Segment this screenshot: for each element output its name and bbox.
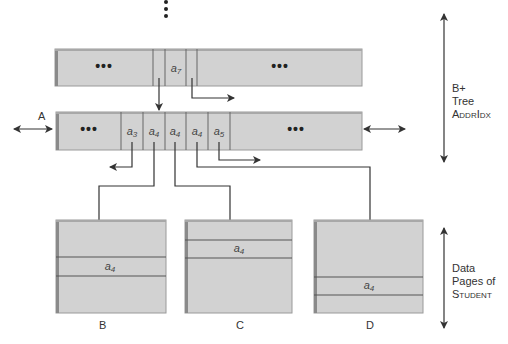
btree-label-line3: AddrIdx — [452, 108, 491, 121]
data-page-C — [185, 220, 292, 313]
leaf-index-node — [56, 112, 362, 150]
page-label-C: C — [236, 319, 244, 332]
pages-label-line1: Data — [452, 262, 495, 275]
pages-label-line3: Student — [452, 288, 495, 301]
data-page-D — [314, 220, 423, 313]
record-sub: 4 — [111, 265, 115, 274]
key-sub: 5 — [220, 130, 224, 139]
page-B-record-a4: a4 — [105, 260, 116, 274]
leaf-key-a3: a3 — [127, 125, 138, 139]
leaf-key-a4-3: a4 — [192, 125, 203, 139]
leaf-node-label-A: A — [38, 110, 45, 123]
more-levels-dots-icon — [164, 0, 168, 21]
leaf-key-a4-1: a4 — [149, 125, 160, 139]
key-sub: 4 — [176, 130, 180, 139]
btree-side-label: B+ Tree AddrIdx — [452, 82, 491, 121]
leaf-key-a4-2: a4 — [170, 125, 181, 139]
top-node-key-a7: a7 — [171, 62, 182, 76]
page-C-record-a4: a4 — [234, 242, 245, 256]
pages-side-label: Data Pages of Student — [452, 262, 495, 301]
top-node-left-ellipsis: ••• — [95, 58, 113, 74]
page-label-B: B — [99, 319, 106, 332]
btree-label-line2: Tree — [452, 95, 491, 108]
btree-label-line1: B+ — [452, 82, 491, 95]
diagram-canvas — [0, 0, 508, 344]
record-sub: 4 — [240, 247, 244, 256]
pages-label-line2: Pages of — [452, 275, 495, 288]
key-sub: 3 — [133, 130, 137, 139]
key-sub: 4 — [155, 130, 159, 139]
page-label-D: D — [366, 319, 374, 332]
key-sub: 7 — [177, 67, 181, 76]
leaf-node-right-ellipsis: ••• — [287, 121, 305, 137]
leaf-node-left-ellipsis: ••• — [80, 121, 98, 137]
top-node-right-ellipsis: ••• — [271, 58, 289, 74]
page-D-record-a4: a4 — [364, 279, 375, 293]
record-sub: 4 — [370, 284, 374, 293]
key-sub: 4 — [198, 130, 202, 139]
leaf-key-a5: a5 — [214, 125, 225, 139]
